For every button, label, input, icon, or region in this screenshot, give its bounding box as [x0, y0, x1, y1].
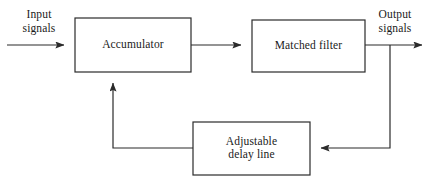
block-label-matched-filter: Matched filter [252, 39, 365, 52]
block-label-accumulator: Accumulator [75, 38, 191, 51]
label-input-signals: Input signals [8, 8, 70, 35]
block-diagram: Accumulator Matched filter Adjustable de… [0, 0, 439, 183]
connector-delay-line-to-accumulator [113, 83, 193, 148]
block-label-adjustable-delay-line: Adjustable delay line [193, 135, 310, 161]
label-output-signals: Output signals [365, 8, 425, 35]
